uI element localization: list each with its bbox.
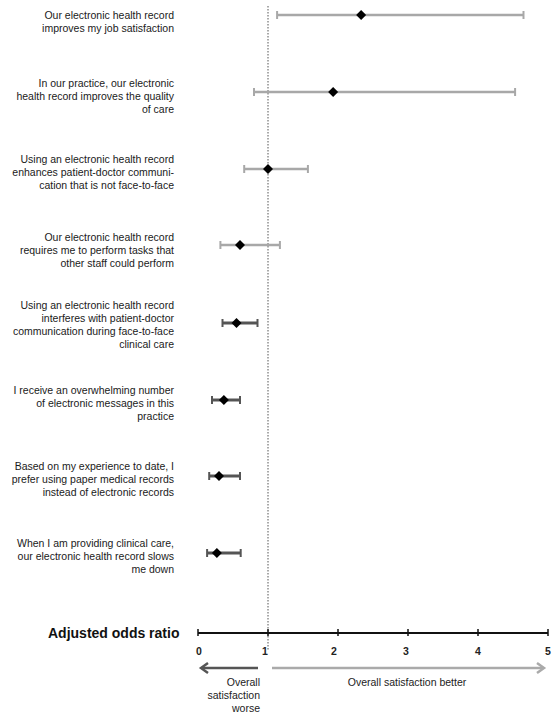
tick-label-5: 5 (545, 645, 551, 657)
tick-label-3: 3 (403, 645, 409, 657)
point-estimate-diamond-icon (219, 395, 229, 405)
point-estimate-diamond-icon (235, 240, 245, 250)
satisfaction-better-label: Overall satisfaction better (272, 676, 542, 688)
axis-title: Adjusted odds ratio (48, 625, 179, 641)
tick-label-1: 1 (262, 645, 268, 657)
point-estimate-diamond-icon (356, 10, 366, 20)
point-estimate-diamond-icon (214, 471, 224, 481)
point-estimate-diamond-icon (328, 87, 338, 97)
point-estimate-diamond-icon (212, 548, 222, 558)
label-line: Overall (198, 676, 260, 689)
label-line: worse (198, 702, 260, 715)
tick-label-4: 4 (475, 645, 481, 657)
point-estimate-diamond-icon (232, 318, 242, 328)
forest-plot (0, 0, 554, 717)
satisfaction-worse-label: Overall satisfaction worse (198, 676, 260, 715)
point-estimate-diamond-icon (263, 164, 273, 174)
tick-label-2: 2 (331, 645, 337, 657)
tick-label-0: 0 (196, 645, 202, 657)
label-line: satisfaction (198, 689, 260, 702)
